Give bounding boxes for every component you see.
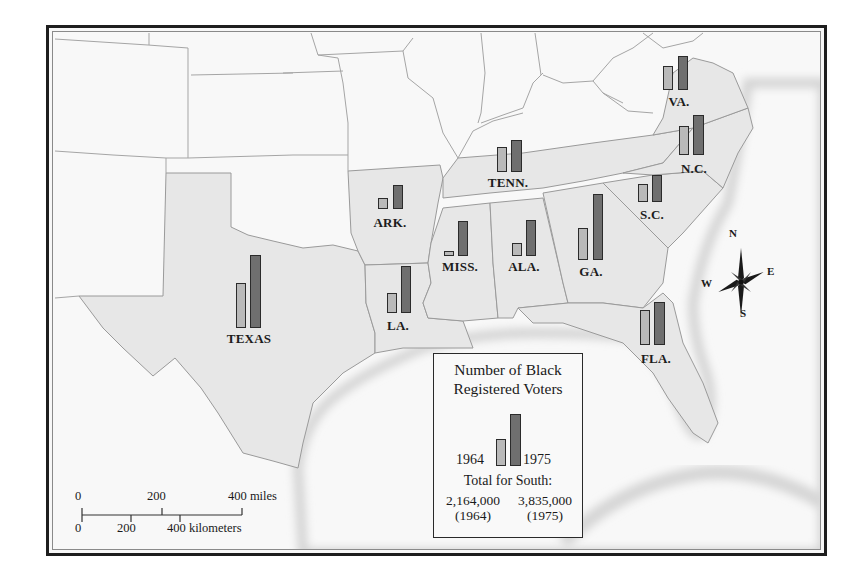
bar-south-carolina-1975 bbox=[652, 175, 662, 202]
bar-florida-1975 bbox=[654, 302, 665, 345]
bar-mississippi-1975 bbox=[458, 221, 468, 256]
legend-total-1975-value: 3,835,000 bbox=[508, 493, 582, 508]
state-label-georgia: GA. bbox=[579, 264, 602, 280]
compass-south-label: S bbox=[740, 307, 746, 319]
bar-louisiana-1975 bbox=[401, 266, 411, 313]
legend-year-1964: 1964 bbox=[456, 452, 484, 468]
state-label-alabama: ALA. bbox=[508, 259, 540, 275]
scale-miles-0: 0 bbox=[75, 489, 81, 504]
bar-alabama-1964 bbox=[512, 243, 522, 256]
scale-bar-lines bbox=[82, 508, 242, 522]
compass-west-label: W bbox=[701, 277, 712, 289]
highlighted-states bbox=[79, 58, 753, 468]
legend-total-1964-value: 2,164,000 bbox=[436, 493, 510, 508]
scale-km-0: 0 bbox=[75, 521, 81, 536]
cuba-shading bbox=[563, 472, 821, 543]
legend-title-line1: Number of Black bbox=[434, 360, 582, 379]
bar-alabama-1975 bbox=[526, 220, 536, 256]
bar-georgia-1964 bbox=[578, 228, 588, 260]
legend-total-1964-year: (1964) bbox=[436, 508, 510, 523]
legend-total-1975: 3,835,000 (1975) bbox=[508, 493, 582, 523]
legend-title-line2: Registered Voters bbox=[434, 379, 582, 398]
bar-texas-1975 bbox=[250, 255, 261, 328]
state-label-louisiana: LA. bbox=[387, 318, 409, 334]
bar-tennessee-1975 bbox=[511, 140, 522, 172]
state-label-virginia: VA. bbox=[669, 94, 690, 110]
legend-bar-1964 bbox=[496, 439, 506, 466]
legend-box: Number of Black Registered Voters 1964 1… bbox=[433, 353, 583, 538]
bar-virginia-1964 bbox=[663, 66, 673, 90]
bar-arkansas-1975 bbox=[393, 185, 403, 209]
bar-georgia-1975 bbox=[593, 194, 603, 260]
legend-total-label: Total for South: bbox=[434, 473, 582, 489]
legend-bar-1975 bbox=[510, 414, 521, 466]
bar-florida-1964 bbox=[640, 310, 650, 345]
bar-north-carolina-1975 bbox=[693, 115, 704, 155]
bar-louisiana-1964 bbox=[387, 293, 397, 313]
compass-rose-icon bbox=[717, 248, 765, 316]
bar-south-carolina-1964 bbox=[638, 184, 648, 202]
bar-north-carolina-1964 bbox=[679, 126, 689, 155]
bar-virginia-1975 bbox=[678, 56, 688, 90]
state-label-mississippi: MISS. bbox=[442, 259, 478, 275]
scale-miles-200: 200 bbox=[147, 489, 166, 504]
state-label-florida: FLA. bbox=[641, 351, 671, 367]
legend-year-1975: 1975 bbox=[523, 452, 551, 468]
compass-east-label: E bbox=[767, 265, 774, 277]
state-label-arkansas: ARK. bbox=[374, 215, 407, 231]
state-label-north-carolina: N.C. bbox=[681, 161, 707, 177]
state-label-south-carolina: S.C. bbox=[640, 207, 664, 223]
legend-total-1975-year: (1975) bbox=[508, 508, 582, 523]
state-texas bbox=[79, 173, 375, 468]
legend-total-1964: 2,164,000 (1964) bbox=[436, 493, 510, 523]
state-label-texas: TEXAS bbox=[227, 331, 271, 347]
legend-title: Number of Black Registered Voters bbox=[434, 360, 582, 398]
bar-mississippi-1964 bbox=[444, 251, 454, 256]
scale-miles-400: 400 miles bbox=[228, 489, 277, 504]
bar-texas-1964 bbox=[236, 283, 246, 328]
scale-km-400: 400 kilometers bbox=[167, 521, 242, 536]
bar-arkansas-1964 bbox=[378, 198, 388, 209]
bar-tennessee-1964 bbox=[497, 147, 507, 172]
state-label-tennessee: TENN. bbox=[488, 175, 528, 191]
compass-north-label: N bbox=[729, 227, 737, 239]
scale-km-200: 200 bbox=[117, 521, 136, 536]
